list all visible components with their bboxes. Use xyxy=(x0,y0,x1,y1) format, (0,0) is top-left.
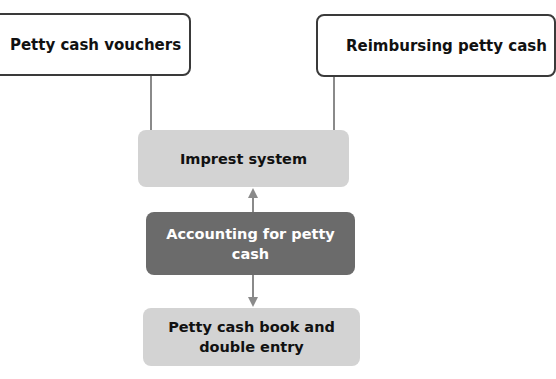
node-label: Imprest system xyxy=(180,149,307,169)
node-reimbursing-petty-cash: Reimbursing petty cash xyxy=(316,14,556,77)
node-petty-cash-vouchers: Petty cash vouchers xyxy=(0,13,191,76)
node-label: Reimbursing petty cash xyxy=(346,36,547,56)
node-label: Accounting for petty cash xyxy=(166,224,335,264)
arrow-up-icon xyxy=(248,188,258,198)
node-accounting-for-petty-cash: Accounting for petty cash xyxy=(146,212,355,275)
node-petty-cash-book: Petty cash book and double entry xyxy=(143,308,360,366)
arrow-down-icon xyxy=(248,297,258,307)
node-label: Petty cash vouchers xyxy=(10,35,181,55)
node-imprest-system: Imprest system xyxy=(138,130,349,187)
node-label: Petty cash book and double entry xyxy=(163,317,340,357)
